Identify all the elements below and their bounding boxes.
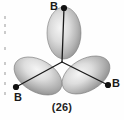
vertex-dot-left bbox=[13, 84, 19, 90]
figure-caption: (26) bbox=[0, 101, 124, 113]
vertex-dot-top bbox=[61, 5, 67, 11]
scan-artifact-speck bbox=[4, 82, 6, 85]
scan-artifact-speck bbox=[4, 62, 6, 65]
scan-artifact-speck bbox=[4, 16, 6, 19]
scan-artifact-speck bbox=[4, 24, 6, 27]
orbital-diagram-figure: B B B (26) bbox=[0, 0, 124, 120]
scan-artifact-speck bbox=[4, 31, 6, 34]
scan-artifact-speck bbox=[4, 72, 6, 75]
atom-label-b-right: B bbox=[112, 78, 120, 89]
atom-label-b-top: B bbox=[50, 1, 58, 12]
vertex-dot-right bbox=[105, 82, 111, 88]
scan-artifact-speck bbox=[4, 92, 6, 95]
scan-artifact-speck bbox=[4, 47, 6, 50]
